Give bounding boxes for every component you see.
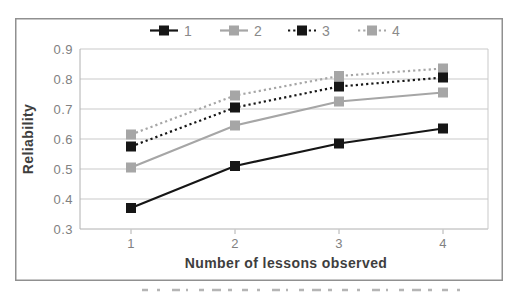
y-tick-label: 0.8 [53,72,73,87]
series-3-marker [126,142,136,152]
legend-marker [297,26,307,36]
reliability-line-chart: 1234 0.90.80.70.60.50.40.3 1234 Reliabil… [0,0,519,293]
series-3-marker [334,82,344,92]
series-2-marker [126,163,136,173]
series-3-marker [438,73,448,83]
series-2-marker [438,88,448,98]
figure-border [16,19,503,281]
legend-item-4: 4 [358,23,400,39]
legend-item-1: 1 [150,23,192,39]
y-tick-label: 0.5 [53,162,73,177]
y-axis-title: Reliability [20,104,36,175]
legend-label: 4 [392,23,400,39]
y-axis-tick-labels: 0.90.80.70.60.50.40.3 [53,42,73,237]
series-3-marker [230,103,240,113]
series-2-marker [230,121,240,131]
series-4 [126,64,448,140]
series-4-marker [438,64,448,74]
x-tick-label: 1 [127,236,135,251]
series-1-marker [334,139,344,149]
x-tick-label: 3 [335,236,343,251]
legend-marker [367,26,377,36]
y-tick-label: 0.3 [53,222,73,237]
legend-label: 2 [254,23,262,39]
series-1-marker [230,161,240,171]
chart-legend: 1234 [150,23,400,39]
legend-item-3: 3 [288,23,330,39]
scanned-figure: 1234 0.90.80.70.60.50.40.3 1234 Reliabil… [0,0,519,293]
series-2-marker [334,97,344,107]
legend-label: 3 [322,23,330,39]
legend-label: 1 [184,23,192,39]
series-4-line [131,69,443,135]
series-4-marker [334,71,344,81]
x-tick-label: 2 [231,236,239,251]
series-4-marker [230,91,240,101]
series-1-line [131,129,443,209]
x-tick-label: 4 [439,236,447,251]
gridlines [80,49,488,229]
data-series [126,64,448,214]
legend-marker [229,26,239,36]
y-tick-label: 0.6 [53,132,73,147]
series-1-marker [126,203,136,213]
series-2-line [131,93,443,168]
x-axis-title: Number of lessons observed [185,255,388,271]
y-tick-label: 0.9 [53,42,73,57]
legend-item-2: 2 [220,23,262,39]
series-1 [126,124,448,214]
series-4-marker [126,130,136,140]
legend-marker [159,26,169,36]
series-3 [126,73,448,152]
y-tick-label: 0.4 [53,192,73,207]
x-axis-tick-labels: 1234 [127,230,447,252]
series-1-marker [438,124,448,134]
y-tick-label: 0.7 [53,102,73,117]
series-2 [126,88,448,173]
